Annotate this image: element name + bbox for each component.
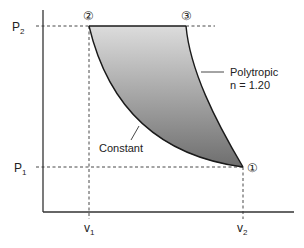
constant-label: Constant — [99, 142, 143, 154]
v2-label: v2 — [237, 221, 248, 237]
p2-label: P2 — [12, 20, 25, 36]
state-2-label: ② — [83, 9, 94, 23]
v1-label: v1 — [84, 221, 95, 237]
state-3-label: ③ — [181, 9, 192, 23]
polytropic-label: Polytropic — [230, 66, 279, 78]
constant-leader-line — [131, 126, 139, 140]
polytropic-n-label: n = 1.20 — [230, 79, 270, 91]
state-1-label: ① — [247, 161, 258, 175]
pv-diagram: P2 P1 v1 v2 ② ③ ① Polytropic n = 1.20 Co… — [0, 0, 304, 248]
p1-label: P1 — [14, 161, 27, 177]
